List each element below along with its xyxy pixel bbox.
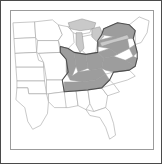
- map-frame: [10, 10, 154, 150]
- range-map-figure: [0, 0, 162, 164]
- state-mn: [35, 20, 63, 41]
- state-fl: [86, 108, 116, 140]
- state-nd: [13, 22, 36, 39]
- state-ms: [64, 91, 78, 108]
- state-al: [76, 90, 90, 110]
- state-nc: [106, 70, 136, 84]
- us-map: [11, 11, 153, 149]
- state-ar: [47, 80, 65, 94]
- state-tx: [16, 88, 49, 129]
- state-ia: [37, 41, 61, 54]
- state-ks: [16, 67, 45, 81]
- state-sd: [14, 38, 37, 54]
- lake-shape-1: [76, 33, 84, 53]
